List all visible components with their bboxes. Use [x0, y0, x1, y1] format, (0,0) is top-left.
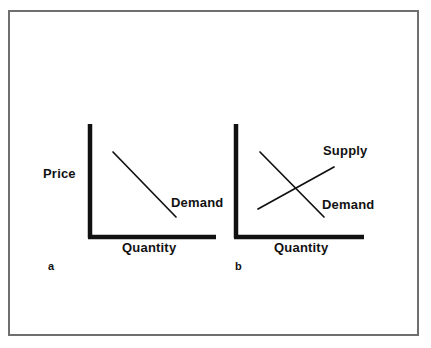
figure-canvas: Price Demand Quantity a Supply Demand Qu… — [0, 0, 431, 348]
panel-b-demand-label: Demand — [322, 198, 375, 211]
panel-b-supply-label: Supply — [323, 144, 368, 157]
panel-b-caption: b — [235, 261, 242, 272]
panel-b-x-axis-label: Quantity — [274, 241, 328, 254]
panel-a-y-axis-label: Price — [43, 167, 76, 180]
panel-a-caption: a — [48, 261, 54, 272]
figure-border: Price Demand Quantity a Supply Demand Qu… — [8, 10, 419, 336]
panel-b-demand-curve — [260, 152, 324, 217]
panel-b: Supply Demand Quantity b — [156, 12, 421, 332]
